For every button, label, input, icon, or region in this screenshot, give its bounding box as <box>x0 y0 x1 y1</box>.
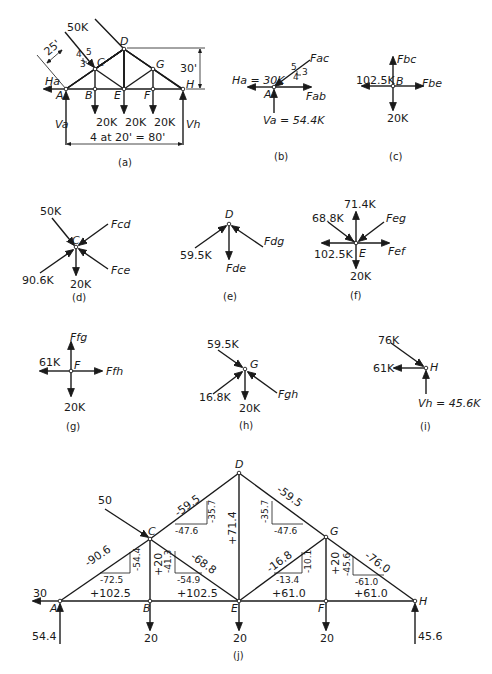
label-down-force: 20K <box>239 402 261 415</box>
node-e: E <box>114 89 121 102</box>
panel-e-joint-d: D 59.5K Fde Fdg (e) <box>180 208 284 302</box>
node-d: D <box>225 208 233 221</box>
label-load-50k: 50K <box>67 21 89 34</box>
label-fdg: Fdg <box>264 235 284 248</box>
node-a: A <box>263 88 272 101</box>
label-down-force: 20K <box>387 112 409 125</box>
force-gh-v: -45.6 <box>342 552 352 576</box>
label-load-f: 20K <box>154 116 176 129</box>
label-load: 50K <box>40 205 62 218</box>
caption-i: (i) <box>420 421 431 432</box>
label-left-force: 61K <box>39 356 61 369</box>
panel-a-truss: 50K 25' 4 5 3 30' Ha Va Vh 20K 20K 20K 4… <box>37 19 205 168</box>
node-g: G <box>250 358 259 371</box>
label-load-f: 20 <box>320 632 334 645</box>
label-ha: Ha <box>45 75 60 88</box>
node-g: G <box>330 525 339 538</box>
node-c: C <box>72 234 80 247</box>
node-c: C <box>148 525 156 538</box>
panel-d-joint-c: 50K Fcd C Fce 90.6K 20K (d) <box>22 205 131 303</box>
label-left-force: 102.5K <box>314 248 353 261</box>
force-ab: +102.5 <box>90 587 131 600</box>
force-be: +102.5 <box>177 587 218 600</box>
force-dg: -59.5 <box>274 483 305 510</box>
force-fg: +20 <box>329 552 342 575</box>
label-vh: Vh <box>186 118 201 131</box>
label-ffh: Ffh <box>106 365 123 378</box>
force-bc: +20 <box>152 553 165 576</box>
label-left-force: 59.5K <box>180 249 212 262</box>
caption-e: (e) <box>223 291 237 302</box>
label-load-e: 20 <box>233 632 247 645</box>
node-f: F <box>144 89 151 102</box>
node-d: D <box>235 458 243 471</box>
label-fcd: Fcd <box>111 218 131 231</box>
force-cd-v: -35.7 <box>207 500 217 523</box>
caption-b: (b) <box>274 151 288 162</box>
panel-g-joint-f: Ffg 61K F Ffh 20K (g) <box>39 331 123 432</box>
label-fac: Fac <box>310 52 329 65</box>
node-a: A <box>49 602 58 615</box>
node-a: A <box>55 89 64 102</box>
label-fbe: Fbe <box>422 77 442 90</box>
slope-3: 3 <box>302 67 308 77</box>
caption-h: (h) <box>239 420 253 431</box>
force-dg-h: -47.6 <box>274 526 298 536</box>
force-cd-h: -47.6 <box>175 526 199 536</box>
node-d: D <box>120 35 128 48</box>
label-vh-value: Vh = 45.6K <box>418 397 481 410</box>
label-feg: Feg <box>386 212 406 225</box>
label-load-b: 20 <box>144 632 158 645</box>
node-f: F <box>74 359 81 372</box>
label-fef: Fef <box>388 245 407 258</box>
node-e: E <box>359 247 366 260</box>
panel-i-joint-h: 76K 61K H Vh = 45.6K (i) <box>373 334 481 432</box>
force-ac-h: -72.5 <box>100 575 123 585</box>
force-gh-h: -61.0 <box>355 577 379 587</box>
label-up-force: 71.4K <box>344 198 376 211</box>
panel-f-joint-e: 71.4K 68.8K Feg 102.5K E Fef 20K (f) <box>312 198 407 301</box>
label-upper-left-force: 68.8K <box>312 212 344 225</box>
label-ha: 30 <box>33 587 47 600</box>
caption-d: (d) <box>72 292 86 303</box>
slope-5: 5 <box>291 62 297 72</box>
label-va: Va <box>55 118 69 131</box>
label-down-force: 20K <box>350 270 372 283</box>
force-de: +71.4 <box>226 511 239 545</box>
caption-c: (c) <box>389 151 402 162</box>
label-ffg: Ffg <box>70 331 87 344</box>
node-g: G <box>156 58 165 71</box>
force-ac: -90.6 <box>82 543 113 570</box>
label-left-force: 61K <box>373 362 395 375</box>
label-dim-25: 25' <box>42 37 63 58</box>
label-span: 4 at 20' = 80' <box>90 131 165 144</box>
node-c: C <box>97 56 105 69</box>
force-ef: +61.0 <box>272 587 306 600</box>
caption-f: (f) <box>350 290 361 301</box>
label-fce: Fce <box>111 264 130 277</box>
label-left-force: 90.6K <box>22 274 54 287</box>
panel-c-joint-b: Fbc 102.5K B Fbe 20K (c) <box>356 53 442 162</box>
label-va-value: Va = 54.4K <box>263 114 325 127</box>
force-ce-h: -54.9 <box>177 575 201 585</box>
force-ac-v: -54.4 <box>132 547 142 571</box>
panel-j-member-forces: 50 30 54.4 45.6 20 20 20 A B C D E F G H… <box>32 458 443 661</box>
label-height-30: 30' <box>180 62 197 75</box>
node-b: B <box>143 602 151 615</box>
label-ha-value: Ha = 30K <box>232 74 285 87</box>
label-lower-left-force: 16.8K <box>199 391 231 404</box>
panel-b-joint-a: Fac Fab Ha = 30K A Va = 54.4K 5 3 4 (b) <box>232 52 329 162</box>
label-upper-left-force: 76K <box>378 334 400 347</box>
force-eg-h: -13.4 <box>276 575 300 585</box>
caption-j: (j) <box>233 650 244 661</box>
force-dg-v: -35.7 <box>260 500 270 523</box>
node-e: E <box>231 602 238 615</box>
caption-g: (g) <box>66 421 80 432</box>
label-vh: 45.6 <box>418 630 443 643</box>
slope-4: 4 <box>293 72 299 82</box>
truss-analysis-figure: 50K 25' 4 5 3 30' Ha Va Vh 20K 20K 20K 4… <box>0 0 492 674</box>
node-h: H <box>186 78 194 91</box>
label-load-e: 20K <box>125 116 147 129</box>
panel-h-joint-g: 59.5K G 16.8K 20K Fgh (h) <box>199 338 298 431</box>
force-gh: -76.0 <box>362 549 393 576</box>
